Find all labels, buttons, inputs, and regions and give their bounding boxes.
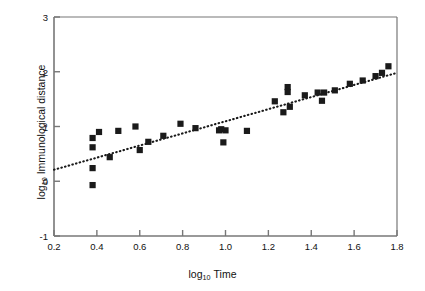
data-point-marker: [319, 98, 325, 104]
data-point-marker: [132, 123, 138, 129]
x-axis-ticks: [54, 230, 397, 236]
data-point-marker: [96, 129, 102, 135]
y-axis-title-main: log: [35, 185, 47, 199]
axis-lines: [54, 17, 397, 236]
y-tick-label: -1: [20, 231, 48, 242]
data-point-marker: [315, 89, 321, 95]
x-axis-title: log10Time: [189, 268, 237, 280]
x-tick-label: 0.2: [47, 241, 60, 252]
x-tick-label: 0.8: [176, 241, 189, 252]
data-point-marker: [89, 182, 95, 188]
data-point-marker: [89, 135, 95, 141]
data-point-marker: [137, 147, 143, 153]
data-point-marker: [222, 127, 228, 133]
data-point-marker: [115, 128, 121, 134]
data-point-marker: [332, 87, 338, 93]
y-tick-label: 3: [20, 12, 48, 23]
data-point-marker: [89, 144, 95, 150]
data-point-marker: [220, 139, 226, 145]
chart-figure: 0.20.40.60.81.01.21.41.61.8 -10123 log10…: [0, 0, 425, 291]
x-tick-label: 0.6: [133, 241, 146, 252]
data-point-marker: [360, 77, 366, 83]
data-point-marker: [272, 98, 278, 104]
data-point-marker: [145, 139, 151, 145]
x-tick-label: 0.4: [90, 241, 103, 252]
x-axis-title-rest: Time: [214, 268, 237, 280]
data-point-marker: [192, 125, 198, 131]
data-point-marker: [321, 89, 327, 95]
x-tick-label: 1.0: [219, 241, 232, 252]
data-point-marker: [107, 154, 113, 160]
y-axis-title-rest: Immunological distance: [35, 65, 47, 175]
data-point-marker: [379, 70, 385, 76]
data-point-marker: [287, 104, 293, 110]
y-axis-ticks: [54, 17, 60, 236]
y-axis-title-subscript: 10: [40, 177, 49, 185]
x-axis-title-main: log: [189, 268, 203, 280]
data-point-marker: [244, 128, 250, 134]
x-tick-label: 1.6: [348, 241, 361, 252]
data-point-marker: [89, 165, 95, 171]
data-point-marker: [302, 92, 308, 98]
data-point-marker: [160, 133, 166, 139]
scatter-plot-canvas: [0, 0, 425, 291]
data-point-marker: [372, 73, 378, 79]
trendline: [54, 73, 397, 170]
x-tick-label: 1.8: [390, 241, 403, 252]
data-point-marker: [385, 63, 391, 69]
y-axis-title: log10Immunological distance: [35, 47, 47, 217]
x-axis-title-subscript: 10: [203, 273, 211, 282]
data-point-marker: [280, 109, 286, 115]
x-tick-label: 1.4: [305, 241, 318, 252]
data-point-marker: [177, 121, 183, 127]
data-points: [89, 63, 391, 188]
data-point-marker: [347, 81, 353, 87]
data-point-marker: [285, 89, 291, 95]
trendline-path: [54, 73, 397, 170]
x-tick-label: 1.2: [262, 241, 275, 252]
